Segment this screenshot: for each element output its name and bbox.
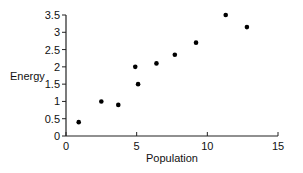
- x-axis: 051015: [63, 132, 284, 152]
- data-points: [76, 13, 249, 125]
- data-point: [99, 99, 104, 104]
- y-tick-label: 1: [54, 95, 60, 107]
- x-tick-label: 10: [201, 140, 213, 152]
- data-point: [133, 65, 138, 70]
- data-point: [194, 40, 199, 45]
- y-tick-label: 0: [54, 130, 60, 142]
- data-point: [136, 82, 141, 87]
- y-tick-label: 0.5: [45, 113, 60, 125]
- data-point: [116, 103, 121, 108]
- x-tick-label: 5: [134, 140, 140, 152]
- y-tick-label: 1.5: [45, 78, 60, 90]
- data-point: [173, 52, 178, 57]
- y-tick-label: 2.5: [45, 44, 60, 56]
- data-point: [76, 120, 81, 125]
- y-tick-label: 3: [54, 26, 60, 38]
- x-tick-label: 15: [272, 140, 284, 152]
- y-axis: 00.511.522.533.5: [45, 9, 66, 142]
- x-tick-label: 0: [63, 140, 69, 152]
- y-tick-label: 3.5: [45, 9, 60, 21]
- y-tick-label: 2: [54, 61, 60, 73]
- data-point: [154, 61, 159, 66]
- scatter-chart: 00.511.522.533.5 051015 Energy Populatio…: [0, 0, 303, 173]
- x-axis-label: Population: [146, 152, 198, 164]
- y-axis-label: Energy: [10, 70, 45, 82]
- data-point: [223, 13, 228, 18]
- data-point: [245, 25, 250, 30]
